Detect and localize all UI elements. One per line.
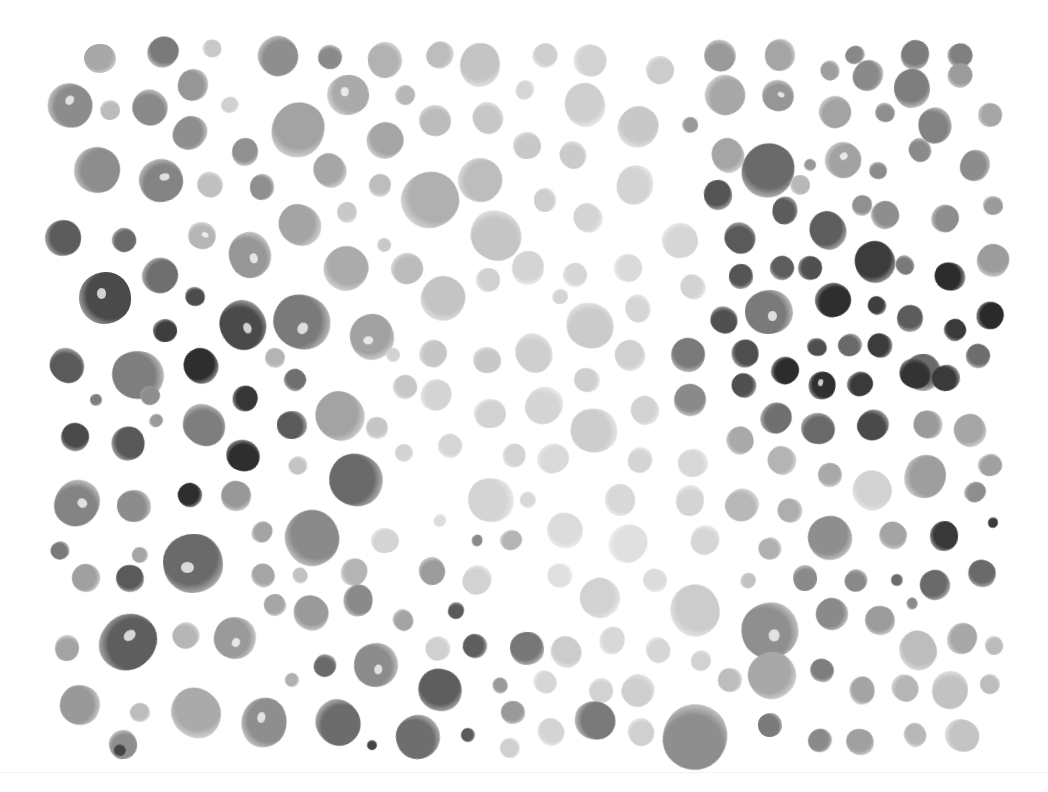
watercolor-dot [728, 262, 754, 289]
watercolor-dot [850, 236, 900, 287]
watercolor-dot [963, 554, 1001, 592]
watercolor-dot [533, 713, 570, 751]
watercolor-dot [53, 678, 108, 733]
watercolor-dot [737, 569, 759, 591]
watercolor-dot [141, 30, 185, 73]
watercolor-dot [893, 624, 943, 675]
watercolor-dot [308, 691, 369, 753]
watercolor-dot [892, 252, 918, 278]
watercolor-dot [433, 429, 467, 463]
watercolor-dot [762, 440, 802, 480]
watercolor-dot [546, 562, 574, 589]
watercolor-dot [763, 38, 796, 73]
watercolor-dot [960, 478, 989, 506]
watercolor-dot [931, 257, 970, 294]
watercolor-dot [512, 131, 541, 159]
watercolor-dot [720, 483, 765, 527]
watercolor-dot [843, 368, 877, 401]
watercolor-dot [534, 188, 556, 212]
watercolor-dot [806, 654, 839, 687]
watercolor-dot [816, 461, 844, 489]
watercolor-dot [206, 609, 263, 666]
watercolor-dot [276, 410, 307, 440]
watercolor-dot [604, 483, 637, 517]
watercolor-dot [741, 601, 800, 659]
watercolor-dot [718, 216, 762, 260]
watercolor-dot [395, 444, 413, 462]
watercolor-dot [162, 533, 223, 593]
watercolor-dot [84, 44, 116, 73]
watercolor-dot [941, 316, 969, 344]
watercolor-dot [52, 633, 81, 664]
watercolor-dot [790, 175, 811, 196]
watercolor-dot [200, 37, 223, 60]
watercolor-dot [136, 156, 186, 205]
watercolor-dot [596, 623, 629, 658]
watercolor-dot [270, 195, 329, 254]
watercolor-dot [423, 633, 453, 662]
watercolor-dot [660, 221, 699, 260]
watercolor-dot [664, 331, 712, 379]
watercolor-dot [161, 678, 232, 749]
watercolor-dot [392, 711, 444, 763]
watercolor-dot [623, 292, 652, 324]
watercolor-dot [758, 713, 782, 737]
watercolor-dot [529, 666, 562, 698]
watercolor-dot [803, 204, 853, 255]
watercolor-dot [286, 588, 335, 637]
watercolor-dot [609, 98, 667, 156]
watercolor-dot [566, 403, 622, 457]
watercolor-dot [643, 634, 674, 666]
watercolor-dot [474, 266, 502, 294]
watercolor-dot [626, 391, 663, 429]
watercolor-dot [941, 617, 982, 659]
watercolor-dot [951, 411, 989, 450]
watercolor-dot [472, 345, 503, 374]
watercolor-dot [48, 539, 71, 561]
watercolor-dot [794, 252, 825, 283]
watercolor-dot [867, 160, 889, 181]
watercolor-dot [725, 424, 755, 455]
watercolor-dot [961, 339, 995, 373]
watercolor-dot [458, 629, 492, 663]
watercolor-dot [39, 74, 102, 136]
watercolor-dot [135, 250, 185, 300]
watercolor-dot [315, 237, 377, 298]
watercolor-dot [468, 97, 509, 139]
watercolor-dot [219, 94, 241, 115]
watercolor-dot [644, 54, 676, 86]
watercolor-dot [975, 100, 1005, 130]
watercolor-dot [665, 579, 725, 641]
watercolor-dot [568, 198, 609, 239]
watercolor-dot [147, 411, 166, 430]
watercolor-dot [803, 724, 836, 757]
paper-edge [0, 772, 1048, 773]
watercolor-dot [417, 555, 447, 587]
watercolor-dot [498, 736, 521, 759]
watercolor-dot [178, 343, 224, 390]
watercolor-dot [313, 40, 346, 73]
watercolor-dot [45, 470, 110, 535]
watercolor-dot [308, 147, 353, 193]
watercolor-dot [623, 443, 657, 478]
watercolor-dot [806, 368, 839, 401]
watercolor-dot [731, 133, 805, 208]
watercolor-dot [229, 135, 261, 168]
watercolor-dot [843, 726, 877, 759]
watercolor-dot [852, 404, 894, 446]
watercolor-dot [805, 335, 830, 358]
watercolor-dot [846, 463, 899, 516]
watercolor-dot [319, 443, 393, 517]
watercolor-dot [554, 136, 591, 174]
watercolor-dot [612, 336, 649, 373]
watercolor-dot [263, 593, 288, 618]
watercolor-dot [129, 702, 151, 723]
watercolor-dot [390, 372, 420, 402]
watercolor-dot [874, 516, 913, 555]
watercolor-dot [500, 440, 528, 469]
watercolor-dot [650, 691, 741, 782]
watercolor-dot [984, 634, 1004, 655]
watercolor-dot [456, 40, 504, 91]
watercolor-dot [79, 272, 131, 324]
watercolor-dot [773, 494, 806, 527]
